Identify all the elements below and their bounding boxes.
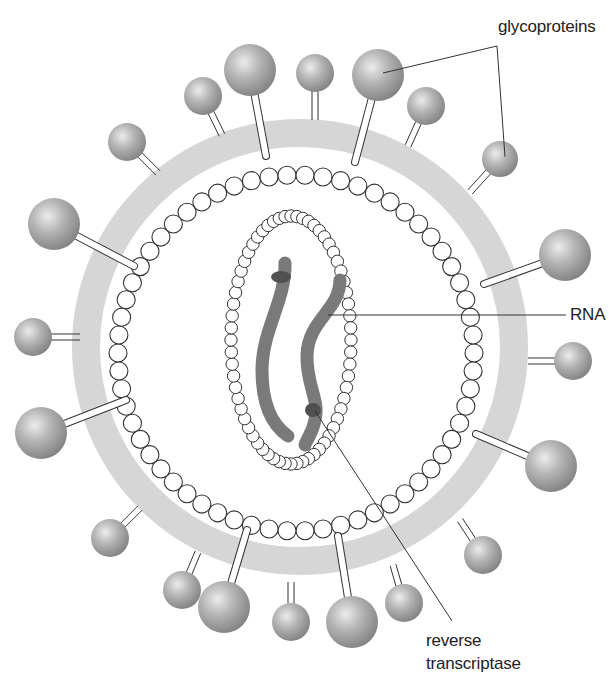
capsid-bead [225,177,243,195]
capsid-bead [117,291,135,309]
viral-envelope-membrane [86,133,514,561]
capsid-bead [131,430,149,448]
capsid-bead [110,326,128,344]
core-bead [232,392,244,404]
core-bead [345,346,357,358]
glycoprotein [184,77,225,136]
core-bead [344,310,356,322]
glycoprotein [163,551,201,609]
capsid-bead [193,193,211,211]
rna-label: RNA [570,304,605,326]
capsid-bead [109,344,127,362]
glycoprotein-sphere [224,44,276,96]
capsid-bead [461,380,479,398]
glycoprotein-sphere [184,77,222,115]
core-bead [229,381,241,393]
glycoprotein-sphere [108,123,146,161]
capsid-bead [113,380,131,398]
capsid-bead [123,414,141,432]
capsid-bead [123,274,141,292]
glycoprotein-sphere [385,584,423,622]
core-bead [340,381,352,393]
capsid-bead [260,168,278,186]
reverse-transcriptase-label-line2: transcriptase [426,653,521,675]
capsid-bead [278,522,296,540]
glycoprotein [405,87,445,147]
capsid-bead [332,516,350,534]
virus-diagram [0,0,609,682]
capsid-bead [465,344,483,362]
glycoprotein-sphere [163,571,201,609]
core-bead [345,334,357,346]
glycoprotein-sphere [296,54,334,92]
capsid-bead [349,511,367,529]
capsid-bead [457,291,475,309]
capsid-bead [242,172,260,190]
capsid-bead [225,511,243,529]
glycoprotein [108,123,160,175]
capsid-bead [209,184,227,202]
glycoprotein-sphere [91,519,129,557]
capsid-bead [260,520,278,538]
reverse-transcriptase-enzyme-top [271,271,291,283]
reverse-transcriptase-label-line1: reverse [426,630,481,652]
glycoprotein-sphere [14,318,52,356]
core-bead [226,310,238,322]
capsid-bead [461,308,479,326]
core-bead [225,322,237,334]
core-bead [226,358,238,370]
capsid-bead [314,168,332,186]
glycoprotein-sphere [482,141,518,177]
glycoprotein [91,506,142,557]
glycoprotein-sphere [198,581,250,633]
glycoprotein-sphere [464,536,502,574]
glycoprotein-sphere [525,440,577,492]
core-bead [342,298,354,310]
capsid-bead [314,520,332,538]
glycoprotein [385,564,423,622]
glycoprotein [14,318,80,356]
glycoprotein [296,54,334,120]
reverse-transcriptase-enzyme-bottom [305,403,321,417]
glycoprotein [468,141,518,194]
glycoprotein-sphere [15,407,67,459]
capsid-bead [464,326,482,344]
core-bead [227,370,239,382]
glycoprotein [528,342,592,380]
rna-strand-left [262,263,288,436]
capsid-bead [332,172,350,190]
core-bead [229,286,241,298]
capsid-bead [381,495,399,513]
core-bead [225,334,237,346]
capsid-bead [296,522,314,540]
glycoprotein [272,582,310,641]
capsid-bead [464,362,482,380]
core-bead [342,370,354,382]
capsid-bead [113,308,131,326]
capsid-bead [278,166,296,184]
capsid-bead [110,362,128,380]
capsid-bead [209,504,227,522]
glycoprotein-sphere [272,603,310,641]
glycoprotein [457,518,502,574]
capsid-bead [349,177,367,195]
glycoprotein-sphere [326,596,378,648]
capsid-bead [365,184,383,202]
glycoprotein-sphere [352,49,404,101]
capsid-bead [365,504,383,522]
capsid-bead [296,166,314,184]
core-bead [227,298,239,310]
core-bead [225,346,237,358]
core-bead [344,358,356,370]
core-bead [345,322,357,334]
rna-strands [262,263,340,445]
capsid-bead [451,414,469,432]
capsid-bead [443,258,461,276]
glycoprotein-sphere [539,229,591,281]
glycoproteins-label: glycoproteins [498,16,596,38]
glycoprotein-sphere [554,342,592,380]
capsid-bead [451,274,469,292]
glycoprotein-sphere [407,87,445,125]
capsid-bead [457,397,475,415]
glycoprotein-sphere [28,198,80,250]
